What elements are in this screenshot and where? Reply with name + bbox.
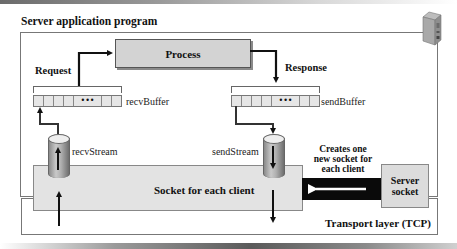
request-arrow [79, 53, 110, 86]
send-buffer-to-stream-line [236, 106, 273, 131]
response-arrow [250, 51, 276, 80]
server-tower-icon [421, 11, 443, 51]
bottom-border-band [0, 243, 457, 249]
flow-arrows [0, 0, 457, 249]
recv-stream-to-buffer-line [40, 110, 58, 134]
